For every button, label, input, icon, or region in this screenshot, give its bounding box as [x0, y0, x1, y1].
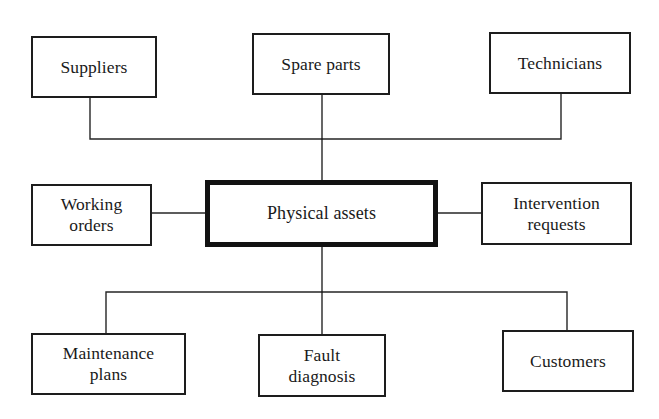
node-maintenance-plans[interactable]: Maintenance plans	[31, 333, 186, 395]
node-physical-assets[interactable]: Physical assets	[205, 180, 438, 247]
diagram-root: SuppliersSpare partsTechniciansWorking o…	[0, 0, 659, 419]
node-spare-parts[interactable]: Spare parts	[252, 33, 390, 95]
node-label-intervention-requests: Intervention requests	[509, 193, 604, 234]
node-intervention-requests[interactable]: Intervention requests	[481, 182, 632, 245]
node-label-fault-diagnosis: Fault diagnosis	[284, 345, 359, 386]
node-fault-diagnosis[interactable]: Fault diagnosis	[258, 334, 386, 397]
node-label-spare-parts: Spare parts	[277, 54, 364, 75]
node-suppliers[interactable]: Suppliers	[31, 36, 157, 98]
node-label-maintenance-plans: Maintenance plans	[59, 343, 158, 384]
connector-suppliers-to-bus	[90, 98, 322, 139]
node-label-working-orders: Working orders	[57, 194, 127, 235]
node-label-physical-assets: Physical assets	[263, 203, 380, 224]
connector-bottom-bus-to-customers	[322, 292, 567, 330]
node-working-orders[interactable]: Working orders	[31, 184, 152, 246]
connector-bottom-bus-to-maintenance-plans	[106, 292, 322, 333]
node-label-technicians: Technicians	[514, 53, 606, 74]
connector-technicians-to-bus	[322, 94, 561, 139]
node-label-suppliers: Suppliers	[56, 57, 131, 78]
node-label-customers: Customers	[526, 351, 610, 372]
node-customers[interactable]: Customers	[502, 330, 634, 392]
node-technicians[interactable]: Technicians	[489, 32, 631, 94]
